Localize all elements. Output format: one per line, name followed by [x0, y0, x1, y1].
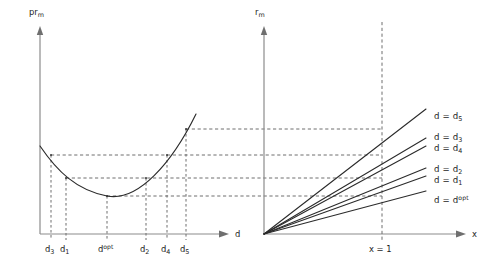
legend-item-d1: d = d1 [434, 176, 463, 185]
legend-item-dopt-sup: opt [458, 194, 468, 201]
ray-d3 [264, 138, 426, 234]
legend-item-dopt-text: d = d [434, 195, 458, 205]
left-y-axis-label-sub: m [38, 11, 44, 19]
left-x-axis-label: d [235, 230, 240, 238]
left-y-axis-arrowhead [37, 26, 43, 35]
legend-item-dopt: d = dopt [434, 196, 469, 205]
legend-item-d4-text: d = d [434, 143, 458, 153]
tick-label-d3-sub: 3 [50, 248, 54, 256]
tick-label-d4-sub: 4 [166, 248, 170, 256]
legend-item-d5-text: d = d [434, 111, 458, 121]
figure-root: prm d d3 d1 dopt d2 d4 d5 rm x x = 1 d =… [0, 0, 495, 264]
right-y-axis-label-sub: m [258, 11, 264, 19]
tick-label-dopt: dopt [98, 245, 113, 253]
right-x-axis-label-text: x [472, 229, 477, 239]
legend-item-d3: d = d3 [434, 133, 463, 142]
ray-d5 [264, 109, 426, 234]
ray-dopt [264, 191, 426, 234]
x-equals-one-label-text: x = 1 [369, 244, 392, 254]
right-y-axis-label: rm [255, 8, 265, 16]
legend-item-d5: d = d5 [434, 112, 463, 121]
legend-item-d2: d = d2 [434, 165, 463, 174]
ray-d4 [264, 146, 426, 234]
tick-label-d2: d2 [140, 245, 149, 253]
tick-label-d4: d4 [161, 245, 170, 253]
legend-item-d1-text: d = d [434, 175, 458, 185]
left-y-axis-label: prm [29, 8, 44, 16]
right-x-axis-arrowhead [456, 231, 466, 238]
ray-d1 [264, 176, 426, 234]
tick-label-d1-sub: 1 [65, 248, 69, 256]
tick-label-d1: d1 [60, 245, 69, 253]
legend-item-d2-sub: 2 [458, 168, 462, 176]
right-x-axis-label: x [472, 230, 477, 238]
x-equals-one-label: x = 1 [369, 245, 392, 253]
left-y-axis-label-base: pr [29, 7, 38, 17]
legend-item-d3-text: d = d [434, 132, 458, 142]
legend-item-d4-sub: 4 [458, 147, 462, 155]
left-panel-group [37, 26, 382, 240]
tick-label-dopt-sup: opt [103, 243, 113, 250]
tick-label-d5-sub: 5 [185, 248, 189, 256]
tick-label-d3: d3 [45, 245, 54, 253]
tick-label-d2-sub: 2 [145, 248, 149, 256]
legend-item-d3-sub: 3 [458, 136, 462, 144]
right-y-axis-arrowhead [261, 26, 267, 35]
figure-canvas [0, 0, 495, 264]
legend-item-d4: d = d4 [434, 144, 463, 153]
legend-item-d2-text: d = d [434, 164, 458, 174]
left-x-axis-label-text: d [235, 229, 240, 239]
right-panel-group [261, 22, 466, 240]
left-x-axis-arrowhead [219, 231, 229, 238]
legend-item-d5-sub: 5 [458, 115, 462, 123]
legend-item-d1-sub: 1 [458, 179, 462, 187]
tick-label-d5: d5 [180, 245, 189, 253]
